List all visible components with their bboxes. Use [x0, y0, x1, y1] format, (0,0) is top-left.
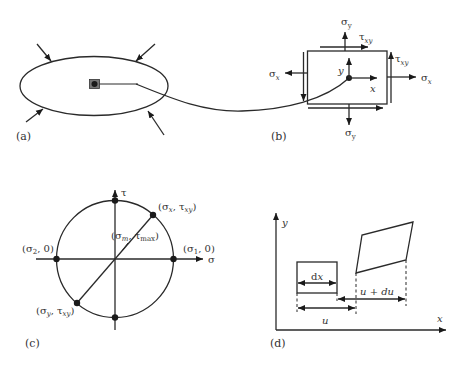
load-arrow-top-left: [37, 44, 51, 61]
point-sigma2: [53, 256, 59, 262]
stress-strain-figure: (a) σy τxy τxy σx σx σy y x (b): [0, 0, 466, 365]
panel-label-d: (d): [270, 337, 286, 350]
panel-a: (a): [16, 44, 168, 143]
point-top: [112, 197, 118, 203]
x-axis-label: x: [437, 313, 443, 324]
panel-label-c: (c): [25, 337, 40, 350]
panel-b: σy τxy τxy σx σx σy y x (b): [269, 16, 432, 143]
point-sigmax-tauxy: [150, 212, 156, 218]
load-arrow-bottom-left: [26, 109, 43, 122]
label-sigmam-taumax: (σm, τmax): [111, 230, 159, 243]
sigma-x-right-label: σx: [421, 72, 432, 86]
load-arrow-bottom-right: [148, 111, 164, 135]
label-sigma2-zero: (σ2, 0): [22, 243, 54, 256]
sigma-axis-label: σ: [208, 254, 215, 265]
local-x-label: x: [370, 83, 376, 94]
u-label: u: [322, 315, 328, 326]
label-sigmax-tauxy: (σx, τxy): [158, 201, 197, 214]
point-bottom: [112, 314, 118, 320]
load-arrow-top-right: [136, 44, 155, 61]
point-sigma1: [170, 256, 176, 262]
panel-c: τ σ (σx, τxy) (σm, τmax) (σ2, 0) (σ1, 0)…: [22, 187, 215, 350]
dx-label: dx: [311, 271, 323, 282]
sm-tmax-leader: [122, 243, 128, 251]
local-y-label: y: [337, 65, 344, 76]
deformed-element: [356, 222, 413, 273]
panel-label-a: (a): [16, 130, 31, 143]
sigma-y-bottom-label: σy: [345, 127, 356, 141]
sigma-y-top-label: σy: [341, 16, 352, 30]
sigma-x-left-label: σx: [269, 68, 280, 82]
material-point-dot: [92, 81, 98, 87]
y-axis-label: y: [281, 217, 288, 228]
panel-d: y x dx u + du u (d): [270, 213, 446, 350]
u-plus-du-label: u + du: [360, 286, 394, 297]
tau-xy-right-label: τxy: [395, 53, 409, 67]
label-sigmay-tauxy: (σy, τxy): [36, 305, 75, 318]
point-sigmay-tauxy: [74, 300, 80, 306]
tau-xy-top-label: τxy: [359, 31, 373, 45]
load-arrows: [26, 44, 164, 135]
tau-axis-label: τ: [121, 187, 127, 198]
panel-label-b: (b): [271, 130, 287, 143]
